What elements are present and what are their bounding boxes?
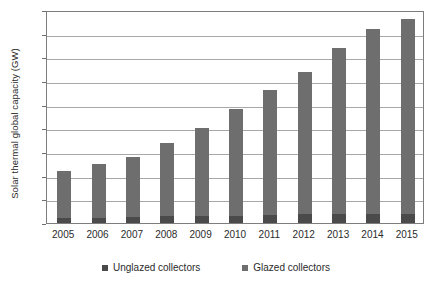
y-tick-mark bbox=[42, 11, 46, 12]
bars-layer bbox=[47, 12, 423, 223]
legend-item: Glazed collectors bbox=[242, 262, 330, 273]
x-tick-label: 2012 bbox=[293, 229, 315, 240]
bar-segment-glazed bbox=[298, 72, 312, 214]
legend-label: Glazed collectors bbox=[253, 262, 330, 273]
bar-group bbox=[160, 143, 174, 223]
y-tick-mark bbox=[42, 200, 46, 201]
x-tick-label: 2010 bbox=[224, 229, 246, 240]
y-tick-mark bbox=[42, 58, 46, 59]
y-tick-mark bbox=[42, 35, 46, 36]
chart-legend: Unglazed collectorsGlazed collectors bbox=[0, 262, 432, 273]
y-tick-mark bbox=[42, 177, 46, 178]
bar-group bbox=[195, 128, 209, 223]
solar-thermal-capacity-chart: Solar thermal global capacity (GW) 05010… bbox=[0, 0, 432, 291]
bar-segment-glazed bbox=[92, 164, 106, 218]
x-tick-label: 2006 bbox=[86, 229, 108, 240]
y-axis-title: Solar thermal global capacity (GW) bbox=[9, 14, 20, 234]
bar-segment-unglazed bbox=[298, 214, 312, 223]
bar-segment-unglazed bbox=[332, 214, 346, 223]
bar-group bbox=[298, 72, 312, 223]
bar-group bbox=[57, 171, 71, 223]
bar-segment-unglazed bbox=[229, 216, 243, 223]
x-tick-label: 2009 bbox=[190, 229, 212, 240]
y-tick-mark bbox=[42, 106, 46, 107]
bar-segment-glazed bbox=[263, 90, 277, 215]
bar-segment-unglazed bbox=[92, 218, 106, 223]
bar-segment-glazed bbox=[366, 29, 380, 214]
bar-segment-glazed bbox=[57, 171, 71, 218]
y-tick-mark bbox=[42, 224, 46, 225]
bar-segment-glazed bbox=[160, 143, 174, 217]
bar-segment-glazed bbox=[195, 128, 209, 216]
bar-group bbox=[229, 109, 243, 223]
bar-segment-glazed bbox=[229, 109, 243, 216]
bar-group bbox=[332, 48, 346, 223]
x-tick-label: 2013 bbox=[327, 229, 349, 240]
legend-swatch-icon bbox=[102, 265, 108, 271]
y-tick-mark bbox=[42, 153, 46, 154]
legend-swatch-icon bbox=[242, 265, 248, 271]
bar-segment-unglazed bbox=[401, 214, 415, 223]
bar-segment-unglazed bbox=[366, 214, 380, 223]
bar-segment-unglazed bbox=[126, 217, 140, 223]
plot-area bbox=[46, 11, 424, 224]
bar-segment-glazed bbox=[401, 19, 415, 213]
bar-segment-glazed bbox=[126, 157, 140, 218]
bar-segment-unglazed bbox=[195, 216, 209, 223]
x-tick-label: 2008 bbox=[155, 229, 177, 240]
bar-group bbox=[263, 90, 277, 223]
x-tick-label: 2015 bbox=[396, 229, 418, 240]
bar-segment-unglazed bbox=[263, 215, 277, 223]
bar-segment-unglazed bbox=[160, 216, 174, 223]
x-tick-label: 2011 bbox=[259, 229, 281, 240]
bar-segment-glazed bbox=[332, 48, 346, 214]
bar-segment-unglazed bbox=[57, 218, 71, 223]
y-tick-mark bbox=[42, 82, 46, 83]
y-tick-mark bbox=[42, 129, 46, 130]
x-tick-label: 2005 bbox=[52, 229, 74, 240]
x-tick-label: 2014 bbox=[361, 229, 383, 240]
bar-group bbox=[126, 157, 140, 223]
legend-label: Unglazed collectors bbox=[113, 262, 200, 273]
bar-group bbox=[366, 29, 380, 223]
bar-group bbox=[401, 19, 415, 223]
x-tick-label: 2007 bbox=[121, 229, 143, 240]
bar-group bbox=[92, 164, 106, 223]
legend-item: Unglazed collectors bbox=[102, 262, 200, 273]
